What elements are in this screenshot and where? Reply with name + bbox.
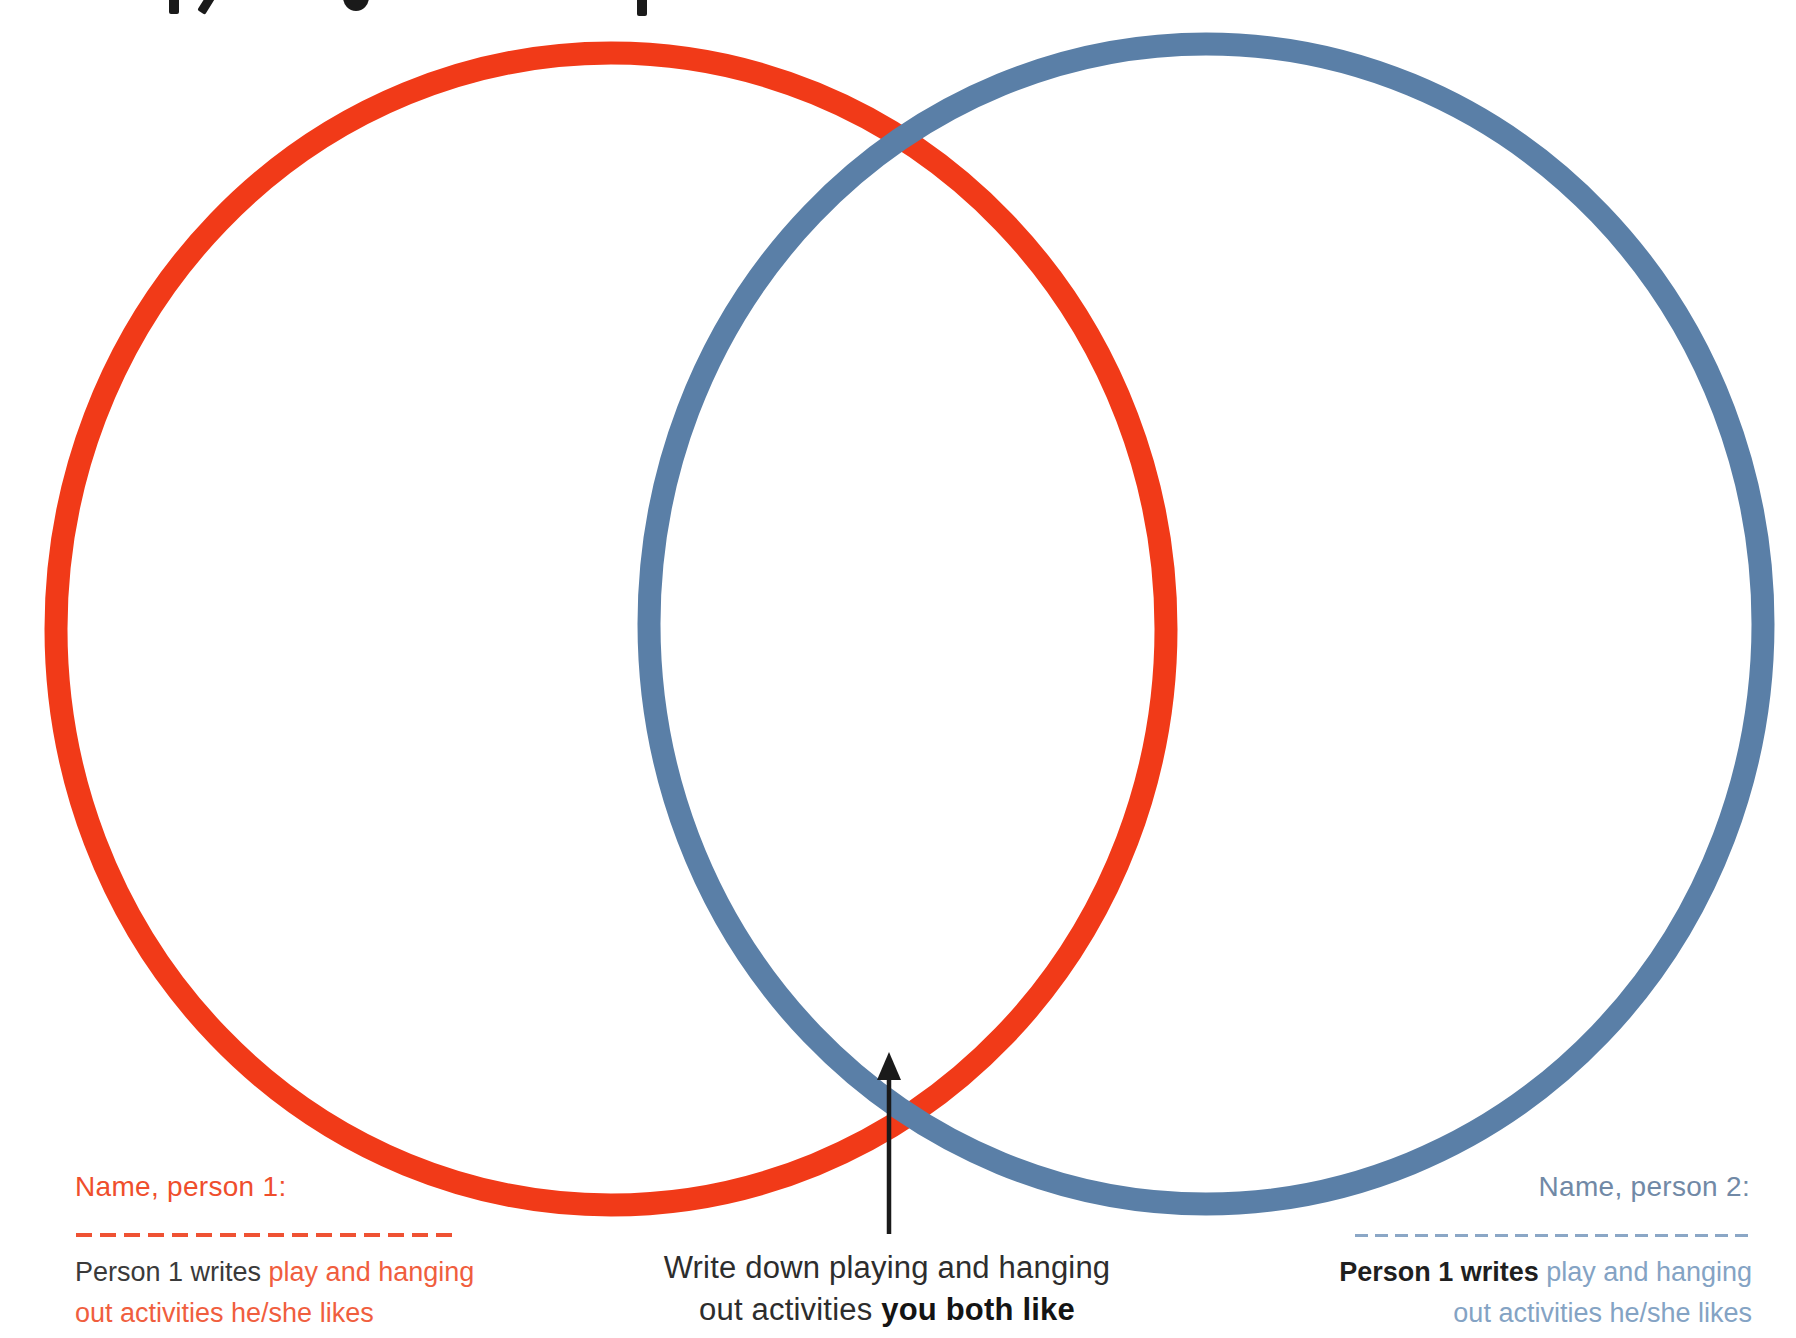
worksheet-page: Name, person 1: Person 1 writes play and…: [0, 0, 1796, 1338]
person1-name-label: Name, person 1:: [75, 1171, 287, 1203]
overlap-caption-line1: Write down playing and hanging: [557, 1247, 1217, 1289]
person1-instruction-orange: play and hanging: [269, 1257, 475, 1287]
clipped-letter-tail-icon: [197, 0, 217, 15]
person2-instructions: Person 1 writes play and hanging out act…: [1339, 1252, 1752, 1334]
person2-name-writein-line[interactable]: [1355, 1234, 1748, 1237]
person1-name-writein-line[interactable]: [76, 1233, 458, 1237]
overlap-caption-bold: you both like: [881, 1292, 1075, 1327]
person2-name-label: Name, person 2:: [1539, 1171, 1751, 1203]
person2-instruction-black: Person 1 writes: [1339, 1257, 1546, 1287]
person2-instruction-line2: out activities he/she likes: [1339, 1293, 1752, 1334]
overlap-caption-line2: out activities you both like: [557, 1289, 1217, 1331]
overlap-caption: Write down playing and hanging out activ…: [557, 1247, 1217, 1331]
person2-instruction-line1: Person 1 writes play and hanging: [1339, 1252, 1752, 1293]
person1-instructions: Person 1 writes play and hanging out act…: [75, 1252, 474, 1334]
overlap-caption-regular: out activities: [699, 1292, 881, 1327]
clipped-title-descenders: [169, 0, 647, 16]
person2-circle: [649, 44, 1763, 1204]
person1-instruction-line2: out activities he/she likes: [75, 1293, 474, 1334]
person1-instruction-black: Person 1 writes: [75, 1257, 269, 1287]
person2-instruction-blue: play and hanging: [1546, 1257, 1752, 1287]
person1-circle: [56, 53, 1166, 1205]
clipped-letter-bowl-icon: [343, 0, 369, 11]
clipped-letter-stem-icon: [637, 0, 647, 16]
venn-diagram: [0, 0, 1796, 1338]
person1-instruction-line1: Person 1 writes play and hanging: [75, 1252, 474, 1293]
clipped-letter-stem-icon: [169, 0, 179, 14]
